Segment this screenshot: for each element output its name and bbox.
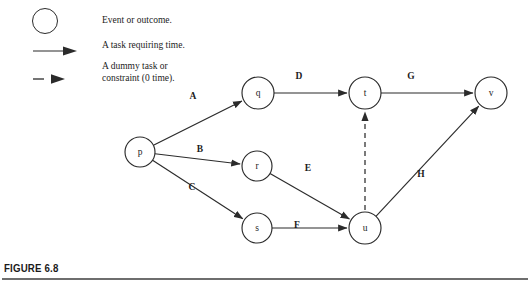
edge-u-v [376, 106, 479, 216]
node-q: q [242, 77, 274, 109]
caption-divider [2, 278, 528, 280]
node-label-t: t [364, 88, 367, 98]
node-label-v: v [489, 88, 494, 98]
nodes-layer: pqrstuv [125, 77, 507, 244]
edges-layer [153, 93, 479, 228]
figure-caption: FIGURE 6.8 [4, 262, 58, 274]
network-diagram: ABCDEFGH pqrstuv [0, 0, 532, 262]
node-s: s [242, 213, 272, 243]
edge-label-G: G [407, 71, 415, 81]
edge-label-A: A [190, 91, 197, 101]
node-t: t [349, 77, 381, 109]
node-v: v [475, 77, 507, 109]
edge-label-C: C [189, 182, 196, 192]
edge-label-B: B [197, 144, 204, 154]
edge-label-D: D [296, 71, 303, 81]
edge-p-r [155, 154, 240, 164]
node-label-q: q [256, 88, 261, 98]
edge-p-s [153, 160, 243, 219]
edge-r-u [270, 173, 349, 219]
node-r: r [242, 151, 272, 181]
node-label-u: u [363, 223, 368, 233]
edge-label-E: E [305, 163, 311, 173]
edge-label-F: F [294, 220, 300, 230]
node-p: p [125, 137, 155, 167]
node-label-p: p [138, 147, 143, 157]
figure-6-8: Event or outcome. A task requiring time.… [0, 0, 532, 286]
node-label-s: s [255, 223, 259, 233]
node-u: u [349, 212, 381, 244]
edge-label-H: H [417, 169, 425, 179]
edge-p-q [153, 101, 241, 145]
